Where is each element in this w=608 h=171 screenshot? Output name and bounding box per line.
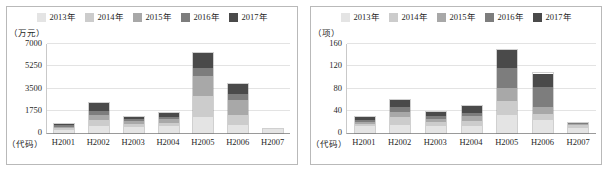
left-legend-label: 2015年	[146, 13, 172, 22]
right-y-tick-label: 0	[338, 127, 342, 137]
left-x-tick-label-H2007: H2007	[255, 137, 290, 149]
left-legend-item-2015年[interactable]: 2015年	[133, 13, 172, 22]
left-bar-segment-H2003-2013年[interactable]	[124, 127, 144, 133]
right-stacked-bar-H2003[interactable]	[426, 112, 446, 133]
right-stacked-bar-H2004[interactable]	[462, 106, 482, 133]
left-bar-segment-H2006-2014年[interactable]	[228, 115, 248, 125]
left-y-tick-label: 7000	[25, 38, 42, 48]
left-legend-swatch-2013	[37, 13, 46, 22]
left-bar-segment-H2005-2015年[interactable]	[193, 76, 213, 96]
right-x-axis-labels: H2001H2002H2003H2004H2005H2006H2007	[346, 137, 596, 149]
left-legend-label: 2016年	[194, 13, 220, 22]
left-stacked-bar-H2005[interactable]	[193, 53, 213, 133]
right-y-tick-label: 160	[329, 38, 342, 48]
left-bar-segment-H2001-2013年[interactable]	[54, 130, 74, 133]
left-bar-segment-H2005-2016年[interactable]	[193, 68, 213, 76]
right-legend-item-2014年[interactable]: 2014年	[389, 13, 428, 22]
right-chart-legend: 2013年2014年2015年2016年2017年	[304, 11, 608, 24]
left-bar-segment-H2002-2013年[interactable]	[89, 126, 109, 133]
left-legend-item-2016年[interactable]: 2016年	[181, 13, 220, 22]
right-bar-segment-H2005-2016年[interactable]	[497, 68, 517, 88]
right-bar-segment-H2004-2017年[interactable]	[462, 106, 482, 113]
left-x-tick-label-H2005: H2005	[185, 137, 220, 149]
left-bar-segment-H2006-2017年[interactable]	[228, 84, 248, 94]
right-legend-item-2016年[interactable]: 2016年	[485, 13, 524, 22]
right-x-tick-label-H2003: H2003	[417, 137, 453, 149]
right-legend-swatch-2017	[533, 13, 542, 22]
right-y-tick-label: 120	[329, 60, 342, 70]
right-y-unit-label: （项）	[313, 26, 340, 38]
right-x-tick-label-H2002: H2002	[382, 137, 418, 149]
left-bar-segment-H2005-2014年[interactable]	[193, 96, 213, 117]
right-legend-swatch-2016	[485, 13, 494, 22]
left-bar-segment-H2006-2013年[interactable]	[228, 125, 248, 133]
left-bar-slot-H2003	[116, 44, 151, 133]
left-legend-item-2013年[interactable]: 2013年	[37, 13, 76, 22]
right-bar-segment-H2005-2014年[interactable]	[497, 101, 517, 114]
left-x-tick-label-H2006: H2006	[220, 137, 255, 149]
right-y-tick-label: 40	[334, 105, 343, 115]
left-bar-segment-H2007-2013年[interactable]	[263, 129, 283, 133]
left-x-tick-label-H2001: H2001	[46, 137, 81, 149]
right-bar-slot-H2002	[383, 44, 419, 133]
right-legend-item-2013年[interactable]: 2013年	[341, 13, 380, 22]
right-legend-swatch-2014	[389, 13, 398, 22]
left-y-tick-label: 3500	[25, 83, 42, 93]
right-bar-segment-H2006-2013年[interactable]	[533, 120, 553, 133]
right-bar-segment-H2005-2013年[interactable]	[497, 115, 517, 133]
left-bar-slot-H2004	[151, 44, 186, 133]
right-bar-segment-H2005-2015年[interactable]	[497, 88, 517, 101]
right-legend-swatch-2013	[341, 13, 350, 22]
left-bar-slot-H2005	[186, 44, 221, 133]
left-x-axis-labels: H2001H2002H2003H2004H2005H2006H2007	[46, 137, 290, 149]
right-x-tick-label-H2007: H2007	[560, 137, 596, 149]
left-stacked-bar-H2006[interactable]	[228, 84, 248, 133]
left-bar-segment-H2004-2013年[interactable]	[159, 126, 179, 133]
left-bar-segment-H2005-2017年[interactable]	[193, 53, 213, 68]
left-bar-segment-H2006-2015年[interactable]	[228, 100, 248, 114]
right-bar-slot-H2001	[347, 44, 383, 133]
left-chart-legend: 2013年2014年2015年2016年2017年	[0, 11, 304, 24]
left-legend-swatch-2015	[133, 13, 142, 22]
right-stacked-bar-H2006[interactable]	[533, 73, 553, 133]
right-legend-item-2015年[interactable]: 2015年	[437, 13, 476, 22]
right-stacked-bar-H2007[interactable]	[568, 123, 588, 133]
left-stacked-bar-H2002[interactable]	[89, 103, 109, 134]
right-stacked-bar-H2002[interactable]	[390, 100, 410, 133]
right-bar-slot-H2007	[560, 44, 596, 133]
left-stacked-bar-H2004[interactable]	[159, 113, 179, 133]
right-bar-segment-H2007-2013年[interactable]	[568, 128, 588, 133]
left-bar-segment-H2005-2013年[interactable]	[193, 117, 213, 133]
right-bar-segment-H2006-2017年[interactable]	[533, 74, 553, 87]
left-y-tick-label: 1750	[25, 105, 42, 115]
left-y-unit-label: （万元）	[9, 26, 45, 38]
left-bar-segment-H2002-2017年[interactable]	[89, 103, 109, 111]
right-bar-segment-H2001-2013年[interactable]	[355, 126, 375, 133]
left-legend-item-2017年[interactable]: 2017年	[229, 13, 268, 22]
right-stacked-bar-H2005[interactable]	[497, 50, 517, 133]
left-stacked-bar-H2001[interactable]	[54, 124, 74, 133]
right-chart-panel: 2013年2014年2015年2016年2017年 （项） 0408012016…	[304, 0, 608, 171]
left-x-tick-label-H2003: H2003	[116, 137, 151, 149]
left-stacked-bar-H2003[interactable]	[124, 117, 144, 133]
left-y-tick-label: 0	[38, 127, 42, 137]
left-legend-label: 2017年	[242, 13, 268, 22]
left-legend-item-2014年[interactable]: 2014年	[85, 13, 124, 22]
figure-sheet: 2013年2014年2015年2016年2017年 （万元） 017503500…	[0, 0, 608, 171]
right-bar-segment-H2002-2017年[interactable]	[390, 100, 410, 107]
right-bar-segment-H2005-2017年[interactable]	[497, 50, 517, 68]
right-bar-segment-H2003-2013年[interactable]	[426, 126, 446, 133]
right-legend-item-2017年[interactable]: 2017年	[533, 13, 572, 22]
right-stacked-bar-H2001[interactable]	[355, 117, 375, 133]
right-bar-segment-H2006-2016年[interactable]	[533, 87, 553, 108]
left-x-tick-label-H2004: H2004	[151, 137, 186, 149]
right-bar-segment-H2002-2013年[interactable]	[390, 125, 410, 133]
right-plot-area: 04080120160	[346, 44, 596, 134]
right-bar-segment-H2002-2014年[interactable]	[390, 117, 410, 124]
left-legend-swatch-2017	[229, 13, 238, 22]
right-bar-group	[347, 44, 596, 133]
right-bar-segment-H2004-2013年[interactable]	[462, 126, 482, 133]
left-x-axis-unit-label: （代码）	[7, 137, 43, 149]
left-bar-slot-H2007	[255, 44, 290, 133]
left-stacked-bar-H2007[interactable]	[263, 129, 283, 133]
